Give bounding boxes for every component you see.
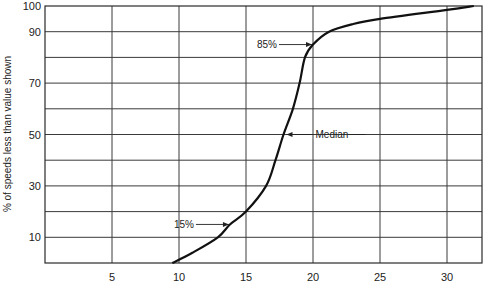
x-tick-label: 25: [374, 271, 386, 283]
y-tick-label: 90: [29, 26, 41, 38]
x-tick-label: 30: [441, 271, 453, 283]
x-tick-label: 5: [109, 271, 115, 283]
y-tick-label: 100: [23, 0, 41, 12]
annotation-label: Median: [316, 129, 349, 140]
y-axis-ticks: 1030507090100: [23, 0, 41, 243]
x-axis-ticks: 51015202530: [109, 271, 453, 283]
x-tick-label: 20: [307, 271, 319, 283]
y-tick-label: 70: [29, 77, 41, 89]
y-tick-label: 10: [29, 231, 41, 243]
arrow-head-icon: [287, 132, 293, 137]
cumulative-speed-chart: 1030507090100 51015202530 % of speeds le…: [0, 0, 486, 300]
annotation-label: 85%: [257, 39, 277, 50]
y-tick-label: 50: [29, 129, 41, 141]
y-axis-label: % of speeds less than value shown: [2, 56, 13, 212]
x-tick-label: 10: [173, 271, 185, 283]
annotation-label: 15%: [174, 219, 194, 230]
x-tick-label: 15: [240, 271, 252, 283]
y-tick-label: 30: [29, 180, 41, 192]
